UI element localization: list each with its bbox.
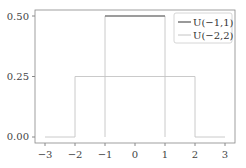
x-tick-label: −1: [98, 149, 113, 160]
x-tick-label: 1: [162, 149, 168, 160]
x-tick-label: 3: [222, 149, 228, 160]
y-tick-label: 0.00: [7, 131, 29, 142]
legend-label-2: U(−2,2): [193, 30, 234, 41]
legend: U(−1,1) U(−2,2): [174, 13, 234, 43]
x-tick-label: 2: [192, 149, 198, 160]
y-tick-label: 0.50: [7, 11, 29, 22]
x-axis: −3 −2 −1 0 1 2 3: [38, 143, 229, 160]
series-u-2-2: [45, 77, 225, 138]
chart: −3 −2 −1 0 1 2 3 0.00 0.25 0.50 U(−1,1) …: [0, 0, 246, 168]
x-tick-label: −3: [38, 149, 53, 160]
legend-label-1: U(−1,1): [193, 17, 234, 28]
y-axis: 0.00 0.25 0.50: [7, 11, 35, 143]
y-tick-label: 0.25: [7, 71, 29, 82]
x-tick-label: −2: [68, 149, 83, 160]
x-tick-label: 0: [132, 149, 138, 160]
